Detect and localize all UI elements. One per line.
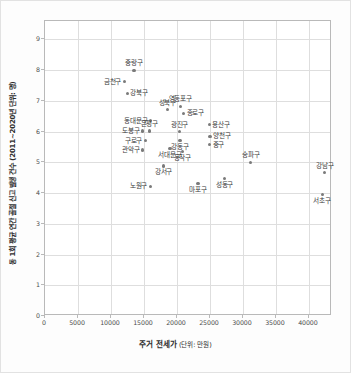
data-point-label: 중구 bbox=[213, 141, 225, 148]
data-point-label: 성북구 bbox=[159, 100, 176, 107]
y-tick-mark bbox=[41, 38, 44, 39]
x-tick-mark bbox=[275, 315, 276, 318]
data-point bbox=[182, 112, 185, 115]
plot-area: 중랑구금천구강북구영등포구성북구종로구동대문구용산구도봉구은평구광진구양천구구로… bbox=[44, 20, 331, 315]
x-tick-label: 10000 bbox=[100, 319, 120, 326]
data-point-label: 은평구 bbox=[141, 121, 158, 128]
data-point bbox=[141, 148, 144, 151]
data-point bbox=[126, 92, 129, 95]
x-tick-label: 0 bbox=[42, 319, 46, 326]
data-point-label: 서초구 bbox=[313, 198, 330, 205]
y-tick-mark bbox=[41, 100, 44, 101]
x-tick-label: 30000 bbox=[232, 319, 252, 326]
data-point-label: 중랑구 bbox=[125, 61, 142, 68]
data-point-label: 도봉구 bbox=[122, 128, 139, 135]
y-tick-mark bbox=[41, 192, 44, 193]
y-tick-mark bbox=[41, 161, 44, 162]
x-tick-label: 15000 bbox=[133, 319, 153, 326]
data-point bbox=[132, 69, 135, 72]
x-tick-label: 20000 bbox=[166, 319, 186, 326]
gridline-vertical bbox=[243, 21, 244, 314]
y-tick-label: 4 bbox=[36, 189, 40, 196]
x-axis-title: 주거 전세가 (단위: 만원) bbox=[1, 338, 350, 349]
y-tick-mark bbox=[41, 315, 44, 316]
x-axis-title-unit: (단위: 만원) bbox=[179, 341, 212, 349]
data-point bbox=[249, 161, 252, 164]
data-point-label: 용산구 bbox=[212, 122, 229, 129]
gridline-horizontal bbox=[45, 132, 330, 133]
x-tick-label: 40000 bbox=[298, 319, 318, 326]
data-point-label: 양천구 bbox=[213, 133, 230, 140]
data-point-label: 광진구 bbox=[171, 122, 188, 129]
gridline-horizontal bbox=[45, 70, 330, 71]
y-tick-mark bbox=[41, 69, 44, 70]
data-point bbox=[223, 177, 226, 180]
data-point bbox=[181, 150, 184, 153]
y-axis-title: 동 1회 평균 연간 골절 신고 발생 건수 (2011~2020년 단위: 명… bbox=[7, 23, 17, 323]
y-tick-label: 8 bbox=[36, 66, 40, 73]
gridline-vertical bbox=[78, 21, 79, 314]
gridline-horizontal bbox=[45, 162, 330, 163]
x-tick-mark bbox=[242, 315, 243, 318]
x-tick-mark bbox=[77, 315, 78, 318]
data-point-label: 관악구 bbox=[122, 147, 139, 154]
data-point-label: 종로구 bbox=[187, 110, 204, 117]
x-tick-mark bbox=[143, 315, 144, 318]
gridline-horizontal bbox=[45, 224, 330, 225]
x-tick-mark bbox=[209, 315, 210, 318]
data-point-label: 강동구 bbox=[171, 144, 188, 151]
y-tick-mark bbox=[41, 131, 44, 132]
y-tick-label: 3 bbox=[36, 219, 40, 226]
y-tick-label: 7 bbox=[36, 96, 40, 103]
data-point bbox=[196, 182, 199, 185]
data-point-label: 강서구 bbox=[155, 169, 172, 176]
data-point bbox=[321, 193, 324, 196]
gridline-vertical bbox=[309, 21, 310, 314]
y-tick-label: 5 bbox=[36, 158, 40, 165]
data-point bbox=[178, 139, 181, 142]
x-tick-mark bbox=[110, 315, 111, 318]
gridline-vertical bbox=[276, 21, 277, 314]
gridline-vertical bbox=[111, 21, 112, 314]
data-point bbox=[148, 129, 151, 132]
data-point-label: 강남구 bbox=[316, 163, 333, 170]
y-tick-label: 1 bbox=[36, 281, 40, 288]
data-point-label: 강북구 bbox=[130, 90, 147, 97]
data-point bbox=[149, 185, 152, 188]
y-tick-mark bbox=[41, 254, 44, 255]
scatter-chart-figure: 중랑구금천구강북구영등포구성북구종로구동대문구용산구도봉구은평구광진구양천구구로… bbox=[0, 0, 351, 373]
gridline-horizontal bbox=[45, 285, 330, 286]
data-point-label: 동작구 bbox=[174, 155, 191, 162]
data-point bbox=[123, 80, 126, 83]
gridline-vertical bbox=[144, 21, 145, 314]
gridline-horizontal bbox=[45, 193, 330, 194]
y-tick-label: 0 bbox=[36, 312, 40, 319]
data-point bbox=[162, 164, 165, 167]
data-point-label: 노원구 bbox=[130, 183, 147, 190]
x-tick-label: 35000 bbox=[265, 319, 285, 326]
data-point-label: 금천구 bbox=[104, 78, 121, 85]
data-point-label: 성동구 bbox=[216, 182, 233, 189]
x-axis-title-text: 주거 전세가 bbox=[139, 340, 176, 349]
y-tick-mark bbox=[41, 223, 44, 224]
x-tick-mark bbox=[176, 315, 177, 318]
data-point bbox=[166, 108, 169, 111]
data-point-label: 구로구 bbox=[125, 138, 142, 145]
data-point bbox=[179, 105, 182, 108]
x-tick-label: 25000 bbox=[199, 319, 219, 326]
data-point bbox=[178, 130, 181, 133]
data-point bbox=[323, 171, 326, 174]
y-tick-label: 6 bbox=[36, 127, 40, 134]
gridline-horizontal bbox=[45, 255, 330, 256]
y-tick-label: 9 bbox=[36, 35, 40, 42]
gridline-vertical bbox=[177, 21, 178, 314]
gridline-horizontal bbox=[45, 39, 330, 40]
y-tick-label: 2 bbox=[36, 250, 40, 257]
data-point-label: 송파구 bbox=[242, 153, 259, 160]
data-point bbox=[168, 147, 171, 150]
gridline-vertical bbox=[210, 21, 211, 314]
x-tick-label: 5000 bbox=[69, 319, 85, 326]
x-tick-mark bbox=[44, 315, 45, 318]
data-point-label: 마포구 bbox=[189, 187, 206, 194]
data-point bbox=[144, 139, 147, 142]
